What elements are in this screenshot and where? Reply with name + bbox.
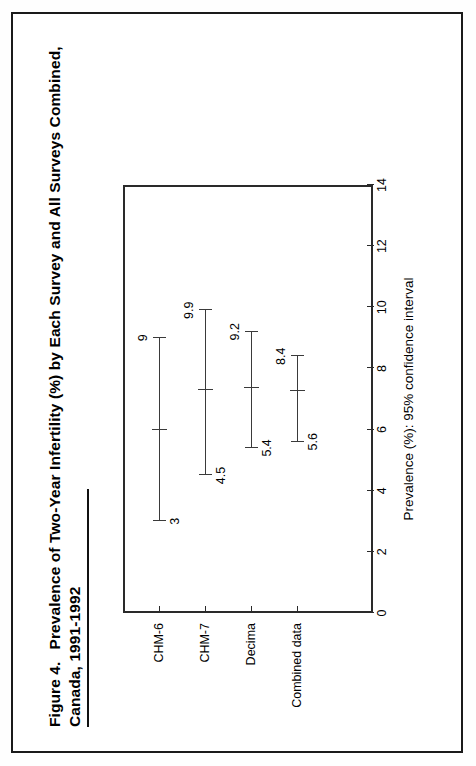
error-bar-low-value-label: 4.5 [214,467,228,484]
category-tick [205,606,206,613]
error-bar-low-value-label: 5.6 [306,433,320,450]
point-estimate-marker [244,387,259,388]
error-bar-cap-high [291,355,304,356]
x-tick-label: 10 [375,300,389,314]
plot-area: 02468101214 CHM-6CHM-7DecimaCombined dat… [123,185,373,613]
point-estimate-marker [290,390,305,391]
error-bar-cap-high [245,331,258,332]
x-tick [367,490,374,491]
category-label: CHM-6 [152,623,166,663]
error-bar-high-value-label: 8.4 [274,348,288,365]
error-bar-cap-high [199,309,212,310]
error-bar-low-value-label: 5.4 [260,439,274,456]
x-tick [367,612,374,613]
category-tick [251,606,252,613]
plot-frame [123,185,373,613]
figure-caption-line-1: Figure 4.Prevalence of Two-Year Infertil… [45,327,65,727]
error-bar-line [159,338,160,521]
x-tick-label: 6 [375,426,389,433]
page-canvas: Figure 4.Prevalence of Two-Year Infertil… [0,0,476,766]
category-tick [297,606,298,613]
category-label: Decima [244,623,258,665]
x-tick [367,184,374,185]
x-tick [367,551,374,552]
category-label: Combined data [290,623,304,708]
category-label: CHM-7 [198,623,212,663]
figure-number: Figure 4. [46,662,63,728]
error-bar-line [251,332,252,448]
x-tick [367,245,374,246]
category-tick [159,606,160,613]
error-bar-cap-low [291,441,304,442]
error-bar-line [205,310,206,475]
error-bar-low-value-label: 3 [168,518,182,525]
error-bar-cap-low [153,520,166,521]
x-tick-label: 4 [375,487,389,494]
error-bar-cap-low [245,447,258,448]
error-bar-high-value-label: 9.9 [182,302,196,319]
x-tick-label: 2 [375,548,389,555]
caption-underline-rule [87,489,89,727]
x-tick [367,367,374,368]
x-tick [367,429,374,430]
x-tick-label: 8 [375,365,389,372]
x-tick-label: 14 [375,178,389,192]
figure-title-line-1: Prevalence of Two-Year Infertility (%) b… [46,46,63,649]
figure-caption-line-2: Canada, 1991-1992 [65,327,85,727]
error-bar-cap-high [153,337,166,338]
error-bar-cap-low [199,474,212,475]
x-tick [367,306,374,307]
x-tick-label: 12 [375,239,389,253]
error-bar-high-value-label: 9 [136,334,150,341]
figure-caption: Figure 4.Prevalence of Two-Year Infertil… [45,327,85,727]
point-estimate-marker [198,389,213,390]
error-bar-line [297,356,298,442]
error-bar-high-value-label: 9.2 [228,323,242,340]
x-tick-label: 0 [375,610,389,617]
point-estimate-marker [152,429,167,430]
figure-stage: Figure 4.Prevalence of Two-Year Infertil… [23,25,453,741]
x-axis-title: Prevalence (%): 95% confidence interval [401,185,416,613]
